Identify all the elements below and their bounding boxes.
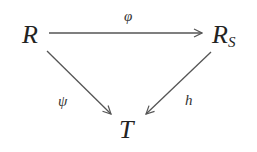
arrow-h (146, 52, 211, 114)
label-phi: φ (124, 9, 132, 24)
node-R: R (22, 22, 38, 48)
label-h: h (185, 93, 193, 108)
node-T: T (119, 117, 133, 143)
node-RS: RS (212, 22, 235, 50)
label-psi: ψ (58, 94, 67, 109)
arrow-psi (47, 51, 111, 114)
